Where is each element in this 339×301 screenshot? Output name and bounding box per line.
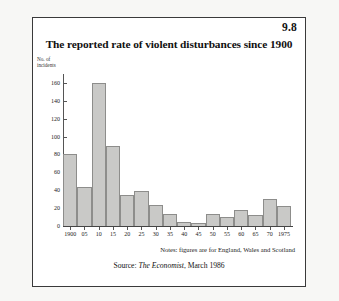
x-tick-30: 30 [149,227,163,239]
x-tick-55: 55 [220,227,234,239]
chart-notes: Notes: figures are for England, Wales an… [160,246,295,253]
y-tick-120: 120 [51,116,63,122]
bar-1970 [263,199,277,226]
x-tick-label: 1900 [64,231,76,237]
figure-page: 9.8 The reported rate of violent disturb… [0,0,339,301]
bar-1900 [63,154,77,226]
bar-1920 [120,195,134,226]
x-tick-label: 25 [138,231,144,237]
bar-1975 [277,206,291,226]
y-axis-label: No. ofincidents [37,56,83,68]
bar-1935 [163,214,177,226]
y-tick-100: 100 [51,134,63,140]
x-tick-label: 1975 [278,231,290,237]
x-tick-label: 50 [210,231,216,237]
x-tick-05: 05 [77,227,91,239]
x-tick-15: 15 [106,227,120,239]
x-axis-ticks: 1900 05 10 15 20 25 30 35 40 45 50 55 60… [63,227,291,239]
bar-1910 [92,83,106,226]
bar-1965 [248,215,262,226]
x-tick-20: 20 [120,227,134,239]
y-tick-140: 140 [51,98,63,104]
x-tick-label: 10 [96,231,102,237]
x-tick-label: 55 [224,231,230,237]
y-tick-80: 80 [54,151,63,157]
x-tick-1900: 1900 [63,227,77,239]
x-tick-70: 70 [263,227,277,239]
x-tick-label: 40 [181,231,187,237]
x-tick-10: 10 [92,227,106,239]
x-tick-35: 35 [163,227,177,239]
bar-1925 [134,191,148,226]
chart-title: The reported rate of violent disturbance… [33,38,305,50]
x-tick-label: 30 [153,231,159,237]
x-tick-label: 65 [252,231,258,237]
x-tick-45: 45 [191,227,205,239]
y-tick-20: 20 [54,205,63,211]
x-tick-label: 60 [238,231,244,237]
x-tick-label: 70 [267,231,273,237]
bar-1915 [106,146,120,226]
x-tick-label: 15 [110,231,116,237]
source-suffix: , March 1986 [184,261,225,270]
x-tick-label: 45 [195,231,201,237]
source-publication: The Economist [139,261,184,270]
chart-source: Source: The Economist, March 1986 [33,261,305,270]
y-tick-160: 160 [51,80,63,86]
bar-1930 [149,205,163,226]
figure-frame: 9.8 The reported rate of violent disturb… [32,17,306,287]
y-tick-40: 40 [54,187,63,193]
x-tick-25: 25 [134,227,148,239]
x-tick-50: 50 [206,227,220,239]
x-tick-40: 40 [177,227,191,239]
figure-number: 9.8 [282,21,297,33]
x-tick-60: 60 [234,227,248,239]
bar-series [63,74,291,226]
x-tick-1975: 1975 [277,227,291,239]
bar-1960 [234,210,248,226]
x-tick-label: 05 [81,231,87,237]
plot-area [63,74,291,226]
x-tick-label: 20 [124,231,130,237]
y-tick-60: 60 [54,169,63,175]
bar-1950 [206,214,220,226]
x-tick-65: 65 [248,227,262,239]
x-tick-label: 35 [167,231,173,237]
bar-1905 [77,187,91,226]
bar-1955 [220,217,234,226]
source-prefix: Source: [113,261,138,270]
